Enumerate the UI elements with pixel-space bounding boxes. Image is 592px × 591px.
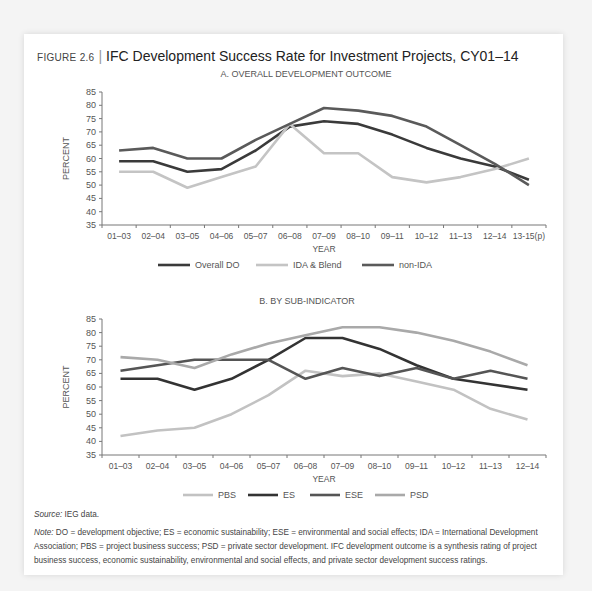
y-tick-label: 35 <box>86 450 96 460</box>
x-tick-label: 04–06 <box>220 461 244 471</box>
legend: Overall DOIDA & Blendnon-IDA <box>158 260 432 270</box>
series-line-ese <box>121 360 528 379</box>
x-tick-label: 07–09 <box>312 231 336 241</box>
x-tick-label: 05–07 <box>244 231 268 241</box>
chart-overall-development-outcome: A. OVERALL DEVELOPMENT OUTCOMEPERCENT354… <box>24 34 563 274</box>
source-text: IEG data. <box>62 510 99 519</box>
legend-label: IDA & Blend <box>293 260 342 270</box>
chart-title: A. OVERALL DEVELOPMENT OUTCOME <box>220 69 391 79</box>
y-tick-label: 85 <box>86 87 96 97</box>
chart-by-sub-indicator: B. BY SUB-INDICATORPERCENT35404550556065… <box>24 274 563 506</box>
y-tick-label: 60 <box>86 154 96 164</box>
y-tick-label: 65 <box>86 368 96 378</box>
x-tick-label: 09–11 <box>381 231 404 241</box>
x-axis-label: YEAR <box>312 244 335 254</box>
y-tick-label: 55 <box>86 167 96 177</box>
legend-label: non-IDA <box>399 260 432 270</box>
y-axis-label: PERCENT <box>61 365 71 409</box>
legend-label: PSD <box>410 490 429 500</box>
legend-label: Overall DO <box>195 260 240 270</box>
x-tick-label: 11–13 <box>479 461 502 471</box>
x-tick-label: 02–04 <box>141 231 165 241</box>
x-tick-label: 08–10 <box>346 231 370 241</box>
y-tick-label: 45 <box>86 423 96 433</box>
y-tick-label: 65 <box>86 140 96 150</box>
series-line-non-ida <box>119 108 529 185</box>
x-tick-label: 09–11 <box>405 461 428 471</box>
series-line-overall-do <box>119 121 529 180</box>
y-axis-label: PERCENT <box>61 137 71 181</box>
x-tick-label: 12–14 <box>483 231 507 241</box>
x-tick-label: 04–06 <box>210 231 234 241</box>
x-tick-label: 06–08 <box>278 231 302 241</box>
x-tick-label: 02–04 <box>146 461 170 471</box>
legend: PBSESESEPSD <box>183 490 429 500</box>
x-tick-label: 01–03 <box>107 231 131 241</box>
x-tick-label: 11–13 <box>449 231 472 241</box>
y-tick-label: 50 <box>86 180 96 190</box>
y-tick-label: 40 <box>86 436 96 446</box>
x-tick-label: 08–10 <box>368 461 392 471</box>
y-tick-label: 70 <box>86 127 96 137</box>
source-label: Source: <box>34 510 62 519</box>
abbreviation-note: Note: DO = development objective; ES = e… <box>34 526 554 568</box>
figure-notes: Source: IEG data. Note: DO = development… <box>34 508 554 572</box>
x-tick-label: 12–14 <box>516 461 540 471</box>
x-axis-label: YEAR <box>312 474 335 484</box>
y-tick-label: 40 <box>86 207 96 217</box>
x-tick-label: 03–05 <box>176 231 200 241</box>
x-tick-label: 07–09 <box>331 461 355 471</box>
x-tick-label: 05–07 <box>257 461 281 471</box>
x-tick-label: 06–08 <box>294 461 318 471</box>
x-tick-label: 10–12 <box>442 461 466 471</box>
y-tick-label: 60 <box>86 382 96 392</box>
y-tick-label: 75 <box>86 341 96 351</box>
y-tick-label: 80 <box>86 328 96 338</box>
x-tick-label: 03–05 <box>183 461 207 471</box>
y-tick-label: 70 <box>86 355 96 365</box>
source-note: Source: IEG data. <box>34 508 554 522</box>
legend-label: PBS <box>218 490 236 500</box>
legend-label: ESE <box>345 490 363 500</box>
y-tick-label: 50 <box>86 409 96 419</box>
y-tick-label: 85 <box>86 314 96 324</box>
figure-card: FIGURE 2.6|IFC Development Success Rate … <box>24 34 563 575</box>
x-tick-label: 13-15(p) <box>513 231 545 241</box>
y-tick-label: 55 <box>86 396 96 406</box>
chart-title: B. BY SUB-INDICATOR <box>259 296 355 306</box>
x-tick-label: 10–12 <box>415 231 439 241</box>
y-tick-label: 45 <box>86 193 96 203</box>
legend-label: ES <box>283 490 295 500</box>
note-label: Note: <box>34 528 54 537</box>
y-tick-label: 80 <box>86 100 96 110</box>
y-tick-label: 75 <box>86 114 96 124</box>
y-tick-label: 35 <box>86 220 96 230</box>
note-text: DO = development objective; ES = economi… <box>34 528 538 565</box>
x-tick-label: 01–03 <box>109 461 133 471</box>
